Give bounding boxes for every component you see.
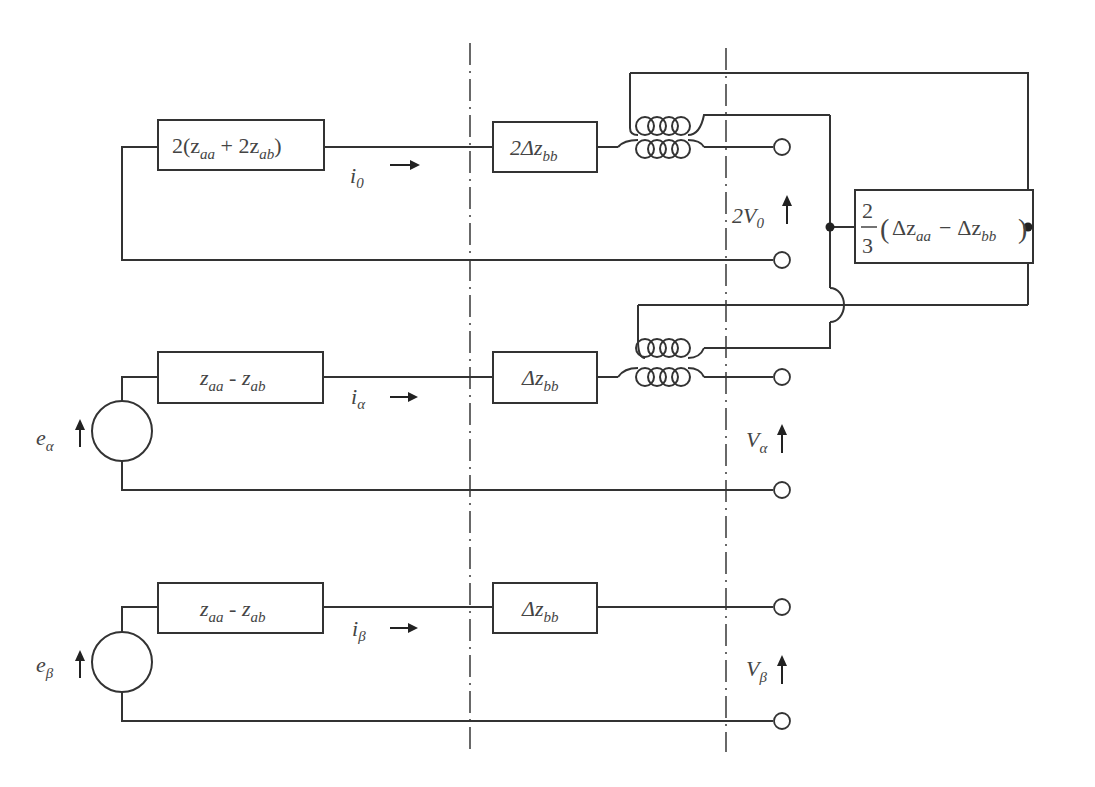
impedance-box-2dzbb [493,122,597,172]
current-label-ibeta: iβ [352,616,366,644]
impedance-box-dzbb-beta [493,583,597,633]
voltage-arrow-up-icon [777,655,787,684]
terminal-alpha-top [774,369,790,385]
voltage-label-valpha: Vα [746,427,768,456]
source-arrow-up-icon [75,419,85,447]
current-label-i0: i0 [350,163,364,191]
svg-text:Δzaa−Δzbb: Δzaa−Δzbb [892,215,997,244]
coupling-network: 2 3 ( Δzaa−Δzbb ) [630,73,1033,348]
svg-text:(: ( [880,213,889,244]
voltage-arrow-up-icon [777,424,787,453]
source-arrow-up-icon [75,650,85,678]
svg-text:2: 2 [862,198,873,223]
transformer-coil-zero-icon [618,73,830,158]
transformer-coil-alpha-icon [618,305,704,386]
voltage-arrow-up-icon [782,195,792,224]
alpha-circuit: eα zaa - zab iα Δzbb [36,305,790,498]
current-label-ialpha: iα [351,384,366,412]
beta-circuit: eβ zaa - zab iβ Δzbb Vβ [36,583,790,729]
voltage-source-alpha-icon [92,401,152,461]
terminal-zero-top [774,139,790,155]
source-label-ealpha: eα [36,425,55,454]
terminal-zero-bottom [774,252,790,268]
svg-text:): ) [1018,213,1027,244]
voltage-source-beta-icon [92,632,152,692]
voltage-label-vbeta: Vβ [746,656,767,685]
current-arrow-right-icon [390,392,418,402]
source-label-ebeta: eβ [36,652,54,681]
svg-text:3: 3 [862,233,873,258]
current-arrow-right-icon [390,160,420,170]
circuit-diagram: 2(zaa + 2zab) i0 2Δzbb 2V0 [0,0,1095,787]
voltage-label-2v0: 2V0 [732,203,764,231]
terminal-alpha-bottom [774,482,790,498]
junction-node-left [826,223,835,232]
terminal-beta-top [774,599,790,615]
zero-sequence-circuit: 2(zaa + 2zab) i0 2Δzbb 2V0 [122,73,830,268]
terminal-beta-bottom [774,713,790,729]
current-arrow-right-icon [390,623,418,633]
